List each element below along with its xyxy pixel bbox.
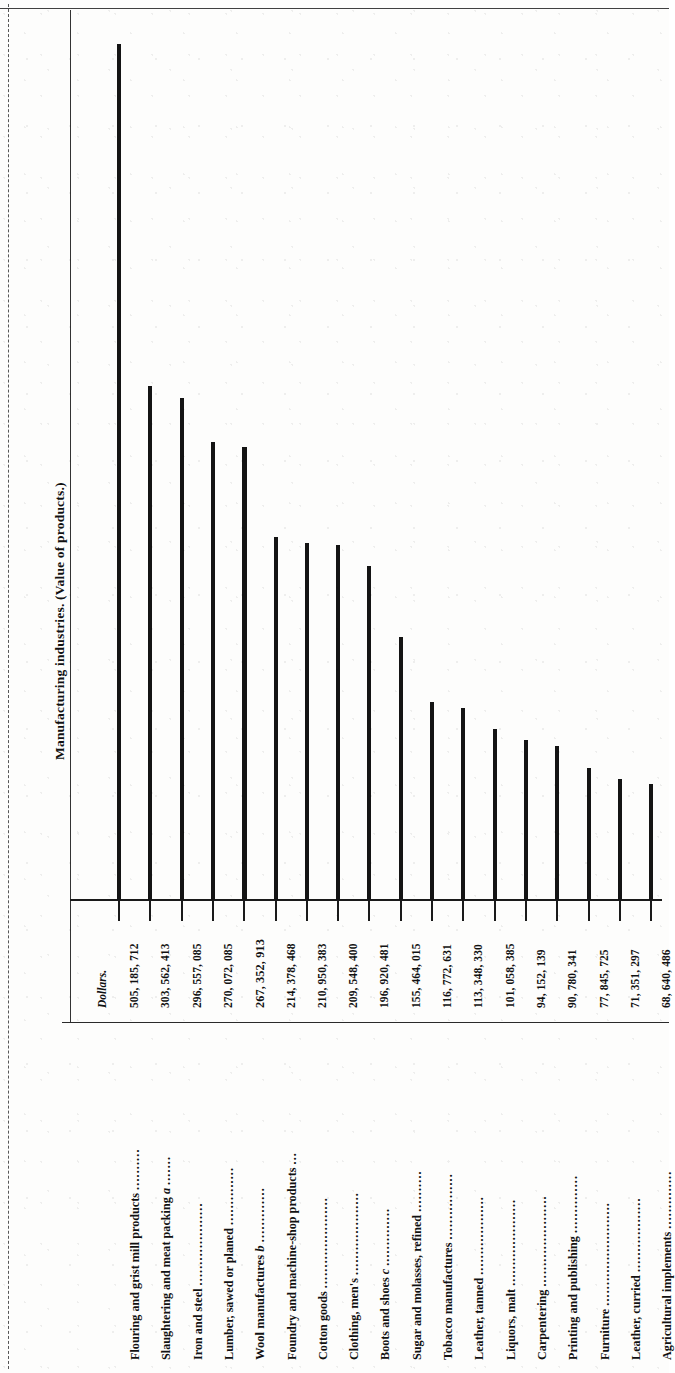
bar-9 [367, 566, 371, 900]
axis-tick-3 [181, 901, 183, 921]
category-label-18: Agricultural implements .............. [660, 1171, 675, 1360]
category-label-9: Boots and shoes c .............. [378, 1208, 393, 1360]
axis-tick-9 [368, 901, 370, 921]
axis-tick-15 [556, 901, 558, 921]
bar-8 [336, 545, 340, 900]
category-label-text-16: Furniture [598, 1306, 612, 1360]
dot-leader-12: ................... [472, 1196, 486, 1275]
page-gutter-dashed-edge [8, 4, 9, 1369]
category-label-12: Leather, tanned ................... [472, 1196, 487, 1360]
value-label-11: 116, 772, 631 [441, 944, 453, 1008]
axis-tick-14 [525, 901, 527, 921]
category-label-text-8: Clothing, men's [347, 1275, 361, 1360]
value-label-18: 68, 640, 486 [660, 949, 672, 1008]
bar-2 [148, 386, 152, 900]
bar-16 [587, 768, 591, 900]
category-label-text-5: Wool manufactures [253, 1252, 267, 1360]
bar-5 [242, 447, 246, 900]
value-label-8: 209, 548, 400 [347, 943, 359, 1008]
bars-plot-area [70, 10, 662, 900]
axis-tick-12 [462, 901, 464, 921]
category-label-text-15: Printing and publishing [566, 1233, 580, 1360]
bar-3 [180, 398, 184, 900]
footnote-marker-2: a [159, 1185, 173, 1194]
category-label-3: Iron and steel .................... [191, 1202, 206, 1360]
table-separator-rule [62, 1022, 669, 1023]
axis-tick-11 [431, 901, 433, 921]
bar-6 [274, 537, 278, 900]
axis-tick-2 [149, 901, 151, 921]
dot-leader-18: .............. [660, 1171, 674, 1229]
value-label-7: 210, 950, 383 [316, 943, 328, 1008]
category-label-1: Flouring and grist mill products .......… [128, 1148, 143, 1360]
category-label-text-14: Carpentering [535, 1287, 549, 1360]
category-label-2: Slaughtering and meat packing a ....... [159, 1156, 174, 1360]
value-label-2: 303, 562, 413 [159, 943, 171, 1008]
bar-4 [211, 442, 215, 900]
value-label-16: 77, 845, 725 [598, 949, 610, 1008]
axis-tick-6 [275, 901, 277, 921]
dot-leader-17: .................. [629, 1197, 643, 1272]
category-label-7: Cotton goods ...................... [316, 1197, 331, 1360]
axis-tick-17 [619, 901, 621, 921]
page-top-rule [0, 8, 669, 9]
dot-leader-3: .................... [191, 1202, 205, 1285]
bar-11 [430, 702, 434, 900]
value-label-9: 196, 920, 481 [378, 943, 390, 1008]
dot-leader-2: ....... [159, 1156, 173, 1185]
category-label-15: Printing and publishing .............. [566, 1175, 581, 1360]
axis-tick-1 [118, 901, 120, 921]
footnote-marker-9: c [378, 1266, 392, 1274]
value-label-5: 267, 352, 913 [253, 939, 268, 1008]
dot-leader-13: ..................... [504, 1199, 518, 1286]
dot-leader-14: ...................... [535, 1195, 549, 1286]
category-label-17: Leather, curried .................. [629, 1197, 644, 1360]
axis-tick-13 [494, 901, 496, 921]
category-label-4: Lumber, sawed or planed .............. [222, 1167, 237, 1360]
category-label-text-12: Leather, tanned [472, 1275, 486, 1360]
footnote-marker-5: b [253, 1242, 267, 1251]
value-label-14: 94, 152, 139 [535, 949, 547, 1008]
category-label-text-3: Iron and steel [191, 1285, 205, 1360]
dot-leader-4: .............. [222, 1167, 236, 1225]
axis-tick-8 [337, 901, 339, 921]
category-label-text-9: Boots and shoes [378, 1274, 392, 1360]
category-label-6: Foundry and machine-shop products ... [285, 1152, 300, 1360]
value-label-6: 214, 378, 468 [285, 943, 297, 1008]
dot-leader-6: ... [285, 1152, 299, 1164]
chart-title: Manufacturing industries. (Value of prod… [52, 482, 68, 760]
category-label-text-7: Cotton goods [316, 1288, 330, 1360]
bar-1 [117, 44, 121, 900]
bar-12 [461, 708, 465, 900]
category-label-text-18: Agricultural implements [660, 1229, 674, 1360]
value-label-4: 270, 072, 085 [222, 943, 234, 1008]
category-label-8: Clothing, men's .................... [347, 1192, 362, 1360]
value-label-13: 101, 058, 385 [504, 943, 516, 1008]
category-label-text-10: Sugar and molasses, refined [410, 1212, 424, 1360]
bar-13 [493, 729, 497, 900]
dot-leader-7: ...................... [316, 1197, 330, 1288]
category-label-16: Furniture ......................... [598, 1202, 613, 1360]
value-label-15: 90, 780, 341 [566, 949, 578, 1008]
category-label-14: Carpentering ...................... [535, 1195, 550, 1360]
category-label-text-17: Leather, curried [629, 1272, 643, 1360]
axis-tick-4 [212, 901, 214, 921]
bar-18 [649, 784, 653, 900]
value-label-10: 155, 464, 015 [410, 943, 422, 1008]
dot-leader-9: .............. [378, 1208, 392, 1266]
dot-leader-15: .............. [566, 1175, 580, 1233]
value-label-12: 113, 348, 330 [472, 944, 484, 1008]
dot-leader-8: .................... [347, 1192, 361, 1275]
dot-leader-1: .......... [128, 1148, 142, 1189]
axis-tick-5 [243, 901, 245, 921]
dot-leader-11: ................ [441, 1173, 455, 1239]
category-label-11: Tobacco manufactures ................ [441, 1173, 456, 1360]
dot-leader-16: ......................... [598, 1202, 612, 1306]
category-label-text-4: Lumber, sawed or planed [222, 1225, 236, 1360]
axis-tick-10 [400, 901, 402, 921]
bar-14 [524, 740, 528, 900]
category-label-text-11: Tobacco manufactures [441, 1239, 455, 1360]
bar-17 [618, 779, 622, 900]
dot-leader-5: ............. [253, 1187, 267, 1242]
value-label-3: 296, 557, 085 [191, 943, 203, 1008]
